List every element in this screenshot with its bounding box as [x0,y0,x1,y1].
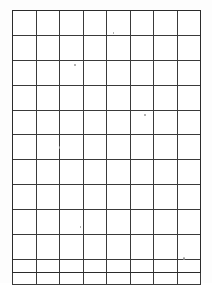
grid-cell[interactable] [60,210,84,235]
grid-cell[interactable] [60,35,84,60]
grid-cell[interactable] [130,60,154,85]
grid-cell[interactable] [154,235,178,260]
table-row[interactable] [13,235,201,260]
table-row[interactable] [13,11,201,36]
table-row[interactable] [13,210,201,235]
grid-cell[interactable] [154,160,178,185]
grid-cell[interactable] [60,259,84,284]
grid-cell[interactable] [83,259,107,284]
grid-cell[interactable] [107,110,131,135]
grid-cell[interactable] [83,185,107,210]
table-row[interactable] [13,35,201,60]
grid-cell[interactable] [130,85,154,110]
grid-cell[interactable] [83,135,107,160]
grid-cell[interactable] [60,135,84,160]
grid-cell[interactable] [154,210,178,235]
grid-cell[interactable] [36,259,60,284]
grid-cell[interactable] [177,210,201,235]
grid-cell[interactable] [154,35,178,60]
table-row[interactable] [13,160,201,185]
grid-cell[interactable] [154,135,178,160]
grid-cell[interactable] [130,185,154,210]
grid-cell[interactable] [36,185,60,210]
grid-cell[interactable] [36,11,60,36]
grid-cell[interactable] [130,210,154,235]
grid-cell[interactable] [107,210,131,235]
grid-cell[interactable] [13,11,37,36]
grid-cell[interactable] [60,110,84,135]
grid-cell[interactable] [13,235,37,260]
grid-cell[interactable] [13,85,37,110]
table-row[interactable] [13,259,201,284]
grid-cell[interactable] [107,35,131,60]
grid-cell[interactable] [60,11,84,36]
grid-cell[interactable] [130,110,154,135]
grid-cell[interactable] [107,235,131,260]
grid-cell[interactable] [83,85,107,110]
grid-cell[interactable] [107,135,131,160]
grid-cell[interactable] [130,11,154,36]
grid-cell[interactable] [154,110,178,135]
grid-cell[interactable] [130,259,154,284]
grid-cell[interactable] [177,60,201,85]
grid-cell[interactable] [36,210,60,235]
grid-cell[interactable] [130,135,154,160]
grid-cell[interactable] [154,85,178,110]
grid-cell[interactable] [107,11,131,36]
grid-cell[interactable] [177,85,201,110]
grid-cell[interactable] [107,160,131,185]
grid-cell[interactable] [83,60,107,85]
grid-cell[interactable] [177,135,201,160]
grid-cell[interactable] [13,259,37,284]
grid-cell[interactable] [13,210,37,235]
grid-cell[interactable] [130,235,154,260]
grid-cell[interactable] [13,185,37,210]
grid-cell[interactable] [36,110,60,135]
grid-cell[interactable] [36,235,60,260]
grid-cell[interactable] [130,35,154,60]
grid-cell[interactable] [107,60,131,85]
grid-cell[interactable] [83,35,107,60]
grid-cell[interactable] [177,185,201,210]
grid-cell[interactable] [60,85,84,110]
grid-cell[interactable] [36,60,60,85]
grid-cell[interactable] [83,235,107,260]
grid-cell[interactable] [60,160,84,185]
grid-cell[interactable] [177,259,201,284]
grid-cell[interactable] [13,160,37,185]
grid-cell[interactable] [36,160,60,185]
grid-cell[interactable] [177,235,201,260]
grid-cell[interactable] [177,110,201,135]
table-row[interactable] [13,185,201,210]
grid-cell[interactable] [83,11,107,36]
grid-cell[interactable] [177,35,201,60]
grid-cell[interactable] [36,85,60,110]
grid-cell[interactable] [154,259,178,284]
grid-cell[interactable] [60,185,84,210]
grid-cell[interactable] [13,35,37,60]
grid-cell[interactable] [60,60,84,85]
grid-cell[interactable] [107,85,131,110]
grid-cell[interactable] [13,110,37,135]
grid-cell[interactable] [130,160,154,185]
grid-cell[interactable] [177,160,201,185]
grid-cell[interactable] [107,185,131,210]
grid-cell[interactable] [60,235,84,260]
grid-cell[interactable] [83,160,107,185]
grid-cell[interactable] [83,110,107,135]
grid-cell[interactable] [154,11,178,36]
grid-cell[interactable] [177,11,201,36]
grid-cell[interactable] [36,35,60,60]
grid-cell[interactable] [154,60,178,85]
grid-cell[interactable] [107,259,131,284]
grid-cell[interactable] [83,210,107,235]
grid-cell[interactable] [36,135,60,160]
table-row[interactable] [13,110,201,135]
blank-grid-table[interactable] [12,10,201,285]
table-row[interactable] [13,85,201,110]
table-row[interactable] [13,60,201,85]
grid-cell[interactable] [13,135,37,160]
table-row[interactable] [13,135,201,160]
grid-cell[interactable] [154,185,178,210]
grid-cell[interactable] [13,60,37,85]
